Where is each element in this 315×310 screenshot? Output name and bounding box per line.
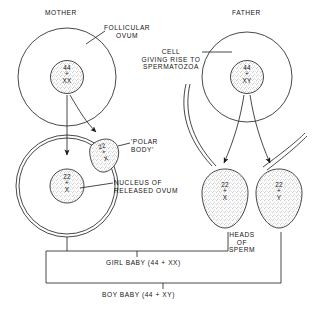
ovum-nucleus-text: 22 + X xyxy=(53,174,81,193)
heads-of-sperm-label: HEADS OF SPERM xyxy=(228,231,256,254)
girl-baby-label: GIRL BABY (44 + XX) xyxy=(106,259,181,267)
sperm-x-chromosomes: X xyxy=(211,195,239,201)
father-nucleus-chromosomes: XY xyxy=(233,78,261,84)
boy-baby-label: BOY BABY (44 + XY) xyxy=(102,291,175,299)
ovum-nucleus-chromosomes: X xyxy=(53,187,81,193)
sperm-tail-right-a xyxy=(263,133,305,167)
arrow-to-polar-body xyxy=(70,95,96,132)
sex-determination-diagram: MOTHER FATHER FOLLICULAR OVUM CELL GIVIN… xyxy=(0,0,315,310)
sperm-tail-right-b xyxy=(267,136,307,170)
sperm-x-nucleus-text: 22 + X xyxy=(211,182,239,201)
mother-title: MOTHER xyxy=(45,9,77,17)
cell-giving-rise-label: CELL GIVING RISE TO SPERMATOZOA xyxy=(140,48,202,71)
father-title: FATHER xyxy=(232,9,261,17)
ovum-nucleus-leader xyxy=(80,183,113,188)
follicular-ovum-label: FOLLICULAR OVUM xyxy=(104,24,150,39)
nucleus-released-ovum-label: NUCLEUS OF RELEASED OVUM xyxy=(114,179,178,194)
arrow-to-sperm-x xyxy=(224,95,244,163)
polar-body-label: 'POLAR BODY' xyxy=(131,138,158,153)
sperm-y-nucleus-text: 22 + Y xyxy=(265,182,293,201)
girl-baby-bracket xyxy=(46,232,228,283)
mother-nucleus-text: 44 + XX xyxy=(53,65,81,84)
sperm-y-chromosomes: Y xyxy=(265,195,293,201)
father-nucleus-text: 44 + XY xyxy=(233,65,261,84)
mother-nucleus-chromosomes: XX xyxy=(53,78,81,84)
polar-body-leader xyxy=(118,143,130,146)
arrow-to-sperm-y xyxy=(250,95,270,163)
